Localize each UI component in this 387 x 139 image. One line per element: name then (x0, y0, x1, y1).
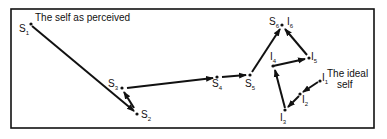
edge-s1-s2 (32, 26, 134, 111)
label-s2: S2 (141, 109, 152, 122)
label-self-as-perceived: The self as perceived (35, 12, 130, 23)
label-s5: S5 (245, 78, 256, 91)
node-s3 (120, 86, 123, 89)
label-s4: S4 (212, 78, 223, 91)
edge-s4-s5 (222, 75, 246, 77)
edge-i5-i6 (285, 29, 307, 55)
node-dots (29, 22, 321, 115)
edge-i1-i2 (303, 82, 318, 92)
edge-i2-i3 (288, 96, 299, 107)
edge-i3-i4 (275, 70, 285, 108)
node-labels: S1 S2 S3 S4 S5 S6 I6 I5 I4 I3 I2 I1 (19, 16, 329, 125)
node-i3 (283, 108, 286, 111)
node-s2 (135, 112, 138, 115)
label-i5: I5 (311, 51, 318, 64)
label-s3: S3 (108, 78, 119, 91)
label-i4: I4 (270, 51, 277, 64)
self-convergence-diagram: The self as perceived The ideal self S1 … (0, 0, 387, 139)
node-s1 (29, 22, 32, 25)
node-i4 (271, 64, 274, 67)
node-s5 (248, 73, 251, 76)
label-ideal-self-line2: self (337, 79, 353, 90)
label-s6: S6 (269, 16, 280, 29)
label-i6: I6 (287, 16, 294, 29)
label-ideal-self-line1: The ideal (327, 68, 368, 79)
node-s6-i6 (280, 23, 283, 26)
label-s1: S1 (19, 23, 30, 36)
label-i3: I3 (280, 112, 287, 125)
edge-i4-i5 (273, 59, 305, 66)
edge-s3-s4 (127, 78, 213, 88)
label-i2: I2 (302, 94, 309, 107)
diagram-frame (11, 9, 374, 128)
edges (32, 26, 318, 111)
